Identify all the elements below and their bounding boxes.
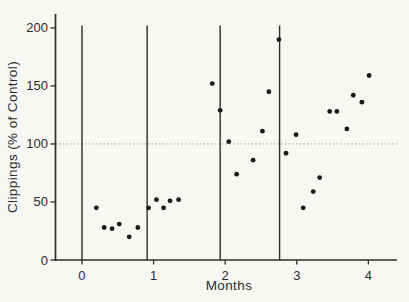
data-point bbox=[327, 109, 332, 114]
data-point bbox=[146, 205, 151, 210]
data-point bbox=[161, 205, 166, 210]
data-point bbox=[251, 158, 256, 163]
y-axis-title: Clippings (% of Control) bbox=[5, 61, 20, 213]
x-axis-title: Months bbox=[206, 278, 253, 293]
data-point bbox=[218, 108, 223, 113]
data-point bbox=[102, 225, 107, 230]
data-point bbox=[127, 234, 132, 239]
clippings-scatter-chart: 05010015020001234 Months Clippings (% of… bbox=[0, 0, 409, 302]
y-tick-label: 200 bbox=[26, 20, 48, 35]
x-tick-label: 0 bbox=[78, 268, 85, 283]
data-point bbox=[276, 37, 281, 42]
data-point bbox=[360, 100, 365, 105]
data-point bbox=[284, 151, 289, 156]
x-tick-label: 1 bbox=[150, 268, 157, 283]
data-point bbox=[367, 73, 372, 78]
x-tick-label: 4 bbox=[365, 268, 372, 283]
data-point bbox=[226, 139, 231, 144]
data-point bbox=[260, 129, 265, 134]
y-tick-label: 150 bbox=[26, 78, 48, 93]
data-point bbox=[210, 81, 215, 86]
data-point bbox=[311, 189, 316, 194]
scatter-plot-figure: 05010015020001234 Months Clippings (% of… bbox=[0, 0, 409, 302]
data-point bbox=[135, 225, 140, 230]
data-point bbox=[294, 132, 299, 137]
y-tick-label: 50 bbox=[34, 194, 48, 209]
data-point bbox=[168, 198, 173, 203]
x-tick-label: 3 bbox=[293, 268, 300, 283]
data-point bbox=[266, 89, 271, 94]
data-point bbox=[351, 93, 356, 98]
data-point bbox=[110, 226, 115, 231]
data-point bbox=[117, 222, 122, 227]
data-point bbox=[234, 172, 239, 177]
data-point bbox=[344, 126, 349, 131]
data-point bbox=[154, 197, 159, 202]
data-point bbox=[317, 175, 322, 180]
y-tick-label: 0 bbox=[41, 253, 48, 268]
data-point bbox=[94, 205, 99, 210]
data-point bbox=[301, 205, 306, 210]
data-point bbox=[334, 109, 339, 114]
y-tick-label: 100 bbox=[26, 136, 48, 151]
data-point bbox=[176, 197, 181, 202]
